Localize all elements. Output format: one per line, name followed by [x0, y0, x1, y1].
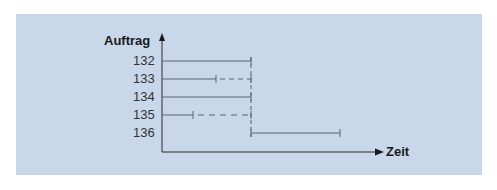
- row-bar-135: [162, 111, 251, 119]
- row-bar-136: [251, 129, 340, 137]
- x-axis-arrow-icon: [375, 149, 384, 156]
- row-bar-133: [162, 75, 251, 83]
- y-axis-arrow-icon: [159, 33, 165, 41]
- row-bar-134: [162, 93, 251, 101]
- timeline-diagram: [0, 0, 497, 190]
- row-bar-132: [162, 57, 251, 65]
